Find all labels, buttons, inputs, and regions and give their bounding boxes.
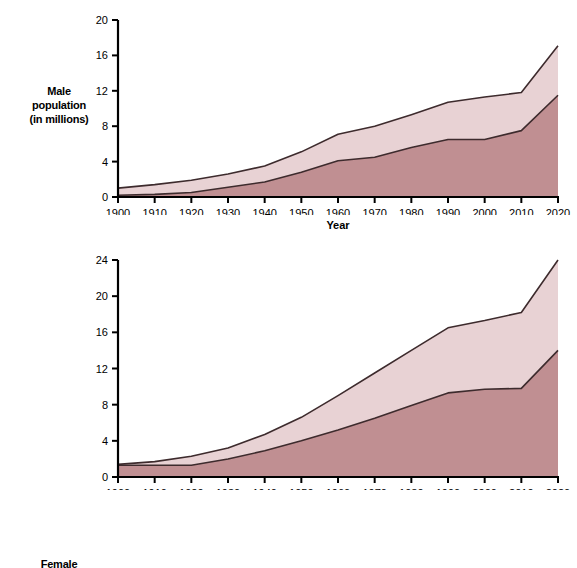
female-xtick-1970: 1970 [362, 487, 386, 490]
female-xtick-1920: 1920 [179, 487, 203, 490]
female-ytick-20: 20 [96, 290, 108, 302]
male-xtick-1940: 1940 [252, 207, 276, 215]
female-population-chart-panel: Female population (in millions) Year 048… [0, 240, 577, 520]
female-ytick-8: 8 [102, 399, 108, 411]
female-ytick-12: 12 [96, 363, 108, 375]
male-ytick-8: 8 [102, 120, 108, 132]
male-xtick-1970: 1970 [362, 207, 386, 215]
female-xtick-2020: 2020 [546, 487, 570, 490]
male-ytick-0: 0 [102, 191, 108, 203]
female-xtick-2010: 2010 [509, 487, 533, 490]
female-xtick-1950: 1950 [289, 487, 313, 490]
male-xtick-1920: 1920 [179, 207, 203, 215]
male-x-axis-title: Year [298, 219, 378, 231]
female-xtick-1960: 1960 [326, 487, 350, 490]
female-xtick-1930: 1930 [216, 487, 240, 490]
male-y-axis-title-line3: (in millions) [16, 112, 102, 126]
male-xtick-1980: 1980 [399, 207, 423, 215]
female-ytick-16: 16 [96, 326, 108, 338]
male-xtick-2010: 2010 [509, 207, 533, 215]
male-xtick-1910: 1910 [142, 207, 166, 215]
legend: 65 to 74 75 and over [0, 520, 577, 568]
female-xtick-1980: 1980 [399, 487, 423, 490]
male-population-chart-panel: Male population (in millions) Year 04812… [0, 0, 577, 240]
female-xtick-1900: 1900 [106, 487, 130, 490]
population-by-age-figure: Male population (in millions) Year 04812… [0, 0, 577, 568]
male-xtick-2000: 2000 [472, 207, 496, 215]
male-xtick-1900: 1900 [106, 207, 130, 215]
male-y-axis-title-line2: population [16, 98, 102, 112]
female-ytick-4: 4 [102, 435, 108, 447]
female-xtick-1990: 1990 [436, 487, 460, 490]
female-xtick-1910: 1910 [142, 487, 166, 490]
female-chart-svg: 0481216202419001910192019301940195019601… [0, 240, 577, 490]
male-xtick-1960: 1960 [326, 207, 350, 215]
male-xtick-1990: 1990 [436, 207, 460, 215]
male-y-axis-title-line1: Male [16, 84, 102, 98]
male-ytick-16: 16 [96, 49, 108, 61]
male-y-axis-title: Male population (in millions) [16, 84, 102, 126]
male-xtick-1930: 1930 [216, 207, 240, 215]
male-xtick-1950: 1950 [289, 207, 313, 215]
male-xtick-2020: 2020 [546, 207, 570, 215]
female-ytick-0: 0 [102, 471, 108, 483]
female-xtick-2000: 2000 [472, 487, 496, 490]
male-ytick-20: 20 [96, 14, 108, 26]
female-xtick-1940: 1940 [252, 487, 276, 490]
male-ytick-4: 4 [102, 156, 108, 168]
female-ytick-24: 24 [96, 254, 108, 266]
